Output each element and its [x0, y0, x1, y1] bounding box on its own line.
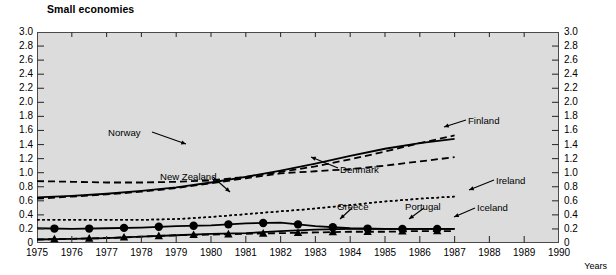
series-annotation-iceland: Iceland [477, 203, 508, 213]
x-tick-label: 1983 [298, 248, 332, 258]
series-annotation-denmark: Denmark [340, 165, 379, 175]
x-tick-label: 1977 [90, 248, 124, 258]
series-annotation-new-zealand: New Zealand [160, 172, 217, 182]
x-tick-label: 1989 [507, 248, 541, 258]
x-axis-label: Years [584, 261, 607, 271]
x-tick-label: 1987 [438, 248, 472, 258]
chart-root: Small economies 3.02.82.62.42.22.01.81.6… [0, 0, 616, 275]
series-annotation-norway: Norway [108, 128, 141, 138]
series-annotation-finland: Finland [468, 116, 499, 126]
x-tick-label: 1979 [159, 248, 193, 258]
series-annotation-portugal: Portugal [405, 202, 441, 212]
x-tick-label: 1980 [194, 248, 228, 258]
x-tick-label: 1982 [264, 248, 298, 258]
x-tick-label: 1981 [229, 248, 263, 258]
x-tick-label: 1978 [124, 248, 158, 258]
x-tick-label: 1984 [333, 248, 367, 258]
x-tick-label: 1976 [55, 248, 89, 258]
x-tick-label: 1986 [403, 248, 437, 258]
x-tick-label: 1988 [472, 248, 506, 258]
x-axis: 1975197619771978197919801981198219831984… [0, 0, 616, 275]
x-tick-label: 1985 [368, 248, 402, 258]
x-tick-label: 1990 [542, 248, 576, 258]
x-tick-label: 1975 [20, 248, 54, 258]
series-annotation-ireland: Ireland [496, 176, 525, 186]
series-annotation-greece: Greece [337, 202, 368, 212]
